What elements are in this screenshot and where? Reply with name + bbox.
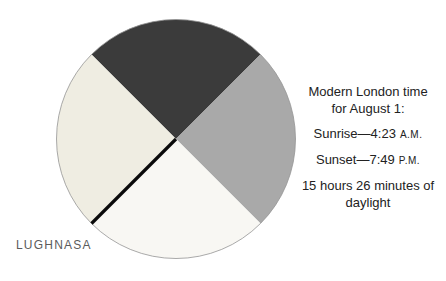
annotation-title: Modern London time for August 1: [290, 83, 446, 117]
sunset-meridiem: P.M. [399, 155, 420, 166]
sunrise-meridiem: A.M. [400, 129, 423, 140]
annotation-title-line2: for August 1: [290, 100, 446, 117]
chart-label-lughnasa: LUGHNASA [16, 238, 92, 252]
annotation-panel: Modern London time for August 1: Sunrise… [290, 83, 446, 219]
daylight-line2: daylight [290, 194, 446, 211]
annotation-sunrise: Sunrise—4:23A.M. [290, 125, 446, 143]
sunrise-time-text: Sunrise—4:23 [314, 126, 396, 141]
annotation-sunset: Sunset—7:49P.M. [290, 151, 446, 169]
sunset-time-text: Sunset—7:49 [316, 152, 395, 167]
annotation-title-line1: Modern London time [290, 83, 446, 100]
daylight-line1: 15 hours 26 minutes of [290, 177, 446, 194]
annotation-daylight: 15 hours 26 minutes of daylight [290, 177, 446, 211]
